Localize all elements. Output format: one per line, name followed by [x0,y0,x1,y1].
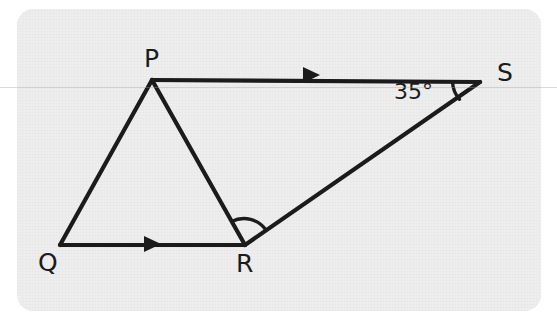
vertex-label-p: P [144,46,159,71]
geometry-figure [0,0,557,323]
figure-strokes [60,80,480,245]
segment-pq [60,80,152,245]
diagram-page: P Q R S 35° [0,0,557,323]
vertex-label-r: R [236,251,253,276]
vertex-label-q: Q [38,250,58,275]
angle-arc-s [453,82,460,100]
arrowhead-qr-icon [144,236,161,252]
angle-label-35-degrees: 35° [394,81,433,103]
segment-rs [245,82,480,245]
vertex-label-s: S [497,60,513,85]
